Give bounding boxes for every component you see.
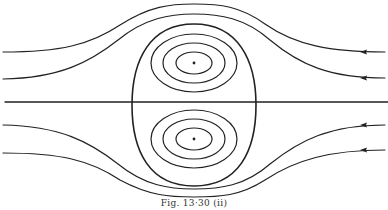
arrow-icon [360, 148, 367, 153]
upper-vortex-center-dot [193, 62, 196, 65]
streamline-upper-outer [3, 4, 385, 52]
arrow-icon [360, 76, 367, 81]
figure-caption: Fig. 13·30 (ii) [0, 198, 388, 208]
flow-diagram [0, 0, 388, 210]
lower-vortex-center-dot [193, 138, 196, 141]
separatrix-oval [132, 24, 256, 186]
arrow-icon [360, 123, 367, 128]
arrow-icon [360, 50, 367, 55]
streamline-lower-outer [3, 150, 385, 197]
